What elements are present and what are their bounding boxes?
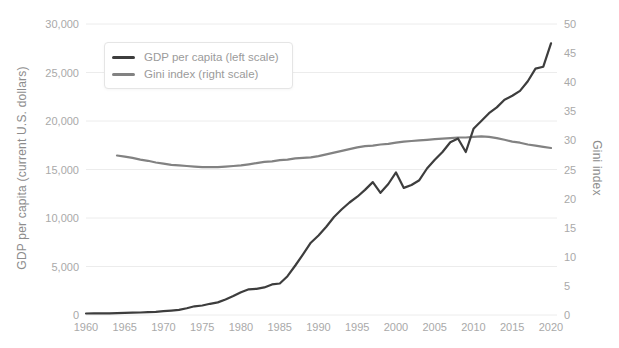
right-axis-tick-label: 10 [564,251,576,263]
x-axis-tick-label: 1980 [229,321,253,333]
gini-line [117,136,551,167]
x-axis-tick-label: 2005 [423,321,447,333]
x-axis-tick-label: 2015 [500,321,524,333]
legend-label-gini: Gini index (right scale) [144,68,258,80]
x-axis-tick-label: 2000 [384,321,408,333]
x-axis-tick-label: 1975 [190,321,214,333]
x-axis-tick-label: 2010 [461,321,485,333]
x-axis-tick-label: 1960 [74,321,98,333]
right-axis-tick-label: 15 [564,222,576,234]
left-axis-tick-label: 25,000 [45,67,79,79]
left-axis-tick-label: 30,000 [45,18,79,30]
right-axis-title: Gini index [590,18,604,318]
legend-label-gdp: GDP per capita (left scale) [144,51,279,63]
legend-item-gini: Gini index (right scale) [112,68,279,80]
left-axis-tick-label: 15,000 [45,164,79,176]
x-axis-tick-label: 1995 [345,321,369,333]
left-axis-title: GDP per capita (current U.S. dollars) [15,18,29,318]
left-axis-tick-label: 0 [73,309,79,321]
right-axis-tick-label: 35 [564,105,576,117]
legend: GDP per capita (left scale) Gini index (… [104,42,293,89]
x-axis-tick-label: 2020 [539,321,563,333]
left-axis-tick-label: 5,000 [51,261,79,273]
right-axis-tick-label: 20 [564,193,576,205]
x-axis-tick-label: 1965 [113,321,137,333]
x-axis-tick-label: 1985 [268,321,292,333]
chart-canvas: 05,00010,00015,00020,00025,00030,0000510… [0,0,619,348]
legend-item-gdp: GDP per capita (left scale) [112,51,279,63]
x-axis-tick-label: 1990 [306,321,330,333]
right-axis-tick-label: 5 [564,280,570,292]
x-axis-tick-label: 1970 [151,321,175,333]
gini-line-swatch [112,73,135,76]
right-axis-tick-label: 25 [564,164,576,176]
gdp-line-swatch [112,56,135,59]
right-axis-tick-label: 40 [564,76,576,88]
right-axis-tick-label: 45 [564,47,576,59]
left-axis-tick-label: 20,000 [45,115,79,127]
right-axis-tick-label: 0 [564,309,570,321]
right-axis-tick-label: 50 [564,18,576,30]
right-axis-tick-label: 30 [564,134,576,146]
dual-axis-line-chart: 05,00010,00015,00020,00025,00030,0000510… [0,0,619,348]
left-axis-tick-label: 10,000 [45,212,79,224]
